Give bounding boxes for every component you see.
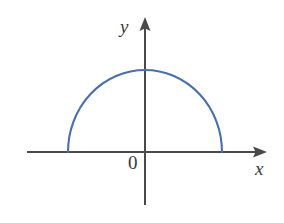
origin-label: 0: [128, 153, 138, 172]
y-axis-label: y: [120, 17, 128, 36]
coordinate-plot: [0, 0, 284, 223]
x-axis-label: x: [255, 159, 263, 178]
figure-container: y x 0: [0, 0, 284, 223]
